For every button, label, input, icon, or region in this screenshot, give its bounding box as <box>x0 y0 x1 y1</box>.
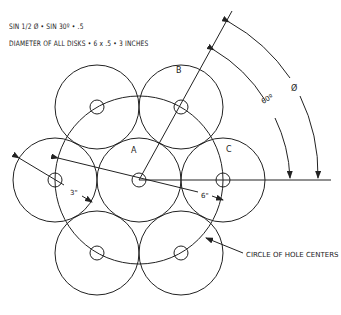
label-phi: Ø <box>291 83 297 93</box>
angle-line <box>139 11 232 180</box>
angle-60-arc <box>214 50 265 100</box>
label-b: B <box>176 66 182 75</box>
disk-layout-diagram: A B C 3" 6" 60º Ø CIRCLE OF HOLE CENTERS <box>0 0 341 315</box>
label-60deg: 60º <box>260 93 275 106</box>
label-6in: 6" <box>201 192 209 200</box>
label-c: C <box>226 145 232 154</box>
angle-phi-arc <box>229 22 290 78</box>
callout-label: CIRCLE OF HOLE CENTERS <box>246 251 339 259</box>
label-3in: 3" <box>70 189 78 197</box>
callout-leader <box>206 238 243 253</box>
label-a: A <box>131 146 137 155</box>
